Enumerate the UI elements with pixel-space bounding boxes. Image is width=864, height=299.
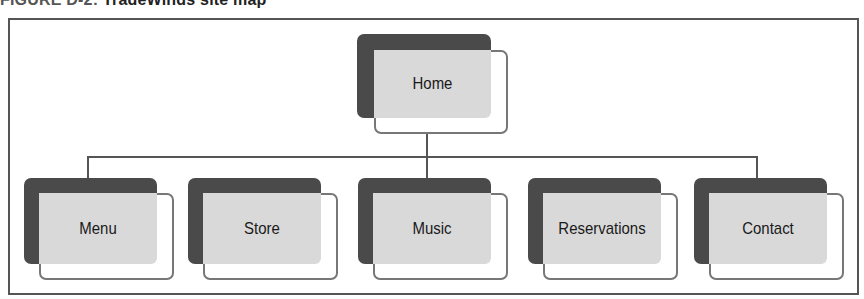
connector-contact xyxy=(756,156,758,179)
figure-caption: FIGURE D-2: TradeWinds site map xyxy=(0,0,267,9)
node-label: Store xyxy=(210,193,314,264)
node-menu: Menu xyxy=(24,178,174,280)
figure-title: TradeWinds site map xyxy=(103,0,267,8)
connector-menu xyxy=(87,156,89,179)
node-contact: Contact xyxy=(694,178,844,280)
node-reservations: Reservations xyxy=(528,178,678,280)
node-store: Store xyxy=(188,178,338,280)
node-label: Music xyxy=(380,193,484,264)
node-label: Contact xyxy=(716,193,820,264)
node-label: Menu xyxy=(46,193,150,264)
node-label: Reservations xyxy=(550,193,654,264)
connector-horizontal xyxy=(87,156,758,158)
node-label: Home xyxy=(381,50,484,118)
node-music: Music xyxy=(358,178,508,280)
figure-number: FIGURE D-2: xyxy=(0,0,98,8)
node-home: Home xyxy=(357,34,508,134)
